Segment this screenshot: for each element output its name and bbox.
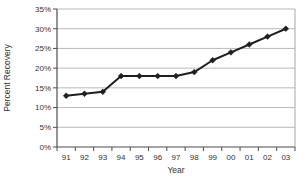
- x-tick-label: 99: [208, 153, 217, 162]
- x-tick-label: 03: [281, 153, 290, 162]
- y-tick-label: 25%: [35, 44, 51, 53]
- x-tick-label: 00: [226, 153, 235, 162]
- y-tick-label: 30%: [35, 25, 51, 34]
- y-tick-label: 15%: [35, 84, 51, 93]
- x-tick-label: 95: [135, 153, 144, 162]
- y-tick-label: 10%: [35, 103, 51, 112]
- x-tick-label: 92: [80, 153, 89, 162]
- x-tick-label: 97: [172, 153, 181, 162]
- x-tick-label: 94: [117, 153, 126, 162]
- y-tick-label: 5%: [39, 123, 51, 132]
- data-point-marker: [228, 49, 234, 55]
- data-point-marker: [283, 26, 289, 32]
- data-point-marker: [173, 73, 179, 79]
- data-point-marker: [136, 73, 142, 79]
- data-point-marker: [63, 93, 69, 99]
- x-tick-label: 01: [245, 153, 254, 162]
- series-line: [66, 29, 286, 96]
- data-point-marker: [155, 73, 161, 79]
- y-tick-label: 20%: [35, 64, 51, 73]
- x-axis-title: Year: [167, 165, 184, 175]
- x-tick-label: 96: [153, 153, 162, 162]
- data-point-marker: [82, 91, 88, 97]
- x-tick-label: 91: [62, 153, 71, 162]
- y-tick-label: 35%: [35, 5, 51, 14]
- chart-dynamic-layer: 0%5%10%15%20%25%30%35%919293949596979899…: [35, 5, 295, 162]
- data-point-marker: [246, 42, 252, 48]
- x-tick-label: 98: [190, 153, 199, 162]
- y-axis-title: Percent Recovery: [2, 43, 12, 111]
- x-tick-label: 02: [263, 153, 272, 162]
- y-tick-label: 0%: [39, 143, 51, 152]
- chart-container: 0%5%10%15%20%25%30%35%919293949596979899…: [0, 0, 306, 179]
- data-point-marker: [265, 34, 271, 40]
- x-tick-label: 93: [98, 153, 107, 162]
- line-chart-svg: 0%5%10%15%20%25%30%35%919293949596979899…: [0, 0, 306, 179]
